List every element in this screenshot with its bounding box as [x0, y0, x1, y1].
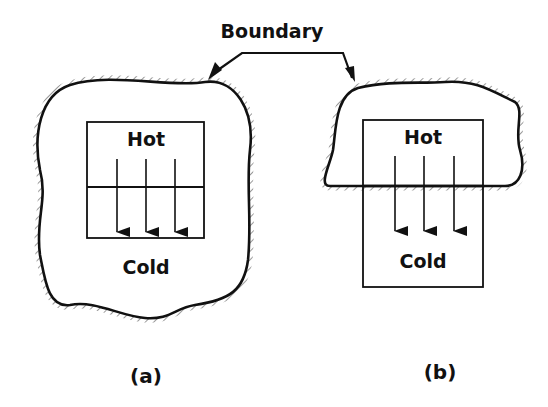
hot-label-a: Hot [127, 128, 165, 150]
cold-label-b: Cold [399, 250, 446, 272]
hot-label-b: Hot [404, 126, 442, 148]
boundary-label: Boundary [221, 20, 324, 42]
boundary-a [38, 80, 251, 318]
caption-b: (b) [424, 360, 457, 384]
caption-a: (a) [130, 364, 162, 388]
diagram-canvas [0, 0, 548, 407]
arrow-head-icon [345, 66, 355, 82]
cold-label-a: Cold [122, 256, 169, 278]
